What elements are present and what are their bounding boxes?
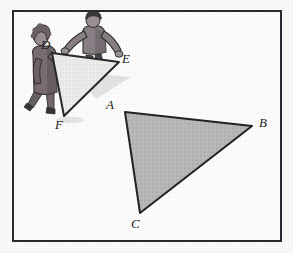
vertex-label-f: F [55, 118, 63, 131]
figure-canvas: A B C D E F [0, 0, 293, 253]
vertex-label-a: A [106, 98, 114, 111]
vertex-label-b: B [259, 116, 267, 129]
vertex-label-c: C [131, 217, 140, 230]
vertex-label-d: D [41, 38, 50, 51]
triangle-abc [125, 112, 252, 213]
vertex-label-e: E [122, 52, 130, 65]
